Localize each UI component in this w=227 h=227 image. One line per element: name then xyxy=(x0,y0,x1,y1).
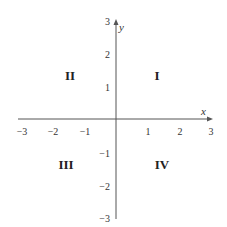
x-tick-labels: −3 −2 −1 1 2 3 xyxy=(17,126,214,137)
y-tick-label: 2 xyxy=(105,49,110,60)
y-tick-label: −3 xyxy=(99,213,110,224)
quadrant-labels: I II III IV xyxy=(58,68,169,172)
coordinate-plane: x y −3 −2 −1 1 2 3 3 2 1 −1 −2 −3 I II I… xyxy=(0,0,227,227)
y-tick-label: 3 xyxy=(105,16,110,27)
quadrant-label-iv: IV xyxy=(155,157,170,172)
x-tick-label: 1 xyxy=(146,126,151,137)
y-tick-label: 1 xyxy=(105,82,110,93)
y-axis-name: y xyxy=(118,21,124,33)
y-tick-label: −2 xyxy=(99,181,110,192)
x-axis-arrow-icon xyxy=(207,117,213,122)
x-tick-label: −1 xyxy=(80,126,91,137)
y-axis-arrow-icon xyxy=(114,19,119,25)
x-axis-name: x xyxy=(200,105,206,117)
x-tick-label: −2 xyxy=(48,126,59,137)
quadrant-label-iii: III xyxy=(58,157,73,172)
quadrant-label-ii: II xyxy=(65,68,75,83)
quadrant-label-i: I xyxy=(154,68,159,83)
y-tick-labels: 3 2 1 −1 −2 −3 xyxy=(99,16,110,224)
x-tick-label: −3 xyxy=(17,126,28,137)
x-tick-label: 3 xyxy=(209,126,214,137)
x-tick-label: 2 xyxy=(178,126,183,137)
y-tick-label: −1 xyxy=(99,148,110,159)
